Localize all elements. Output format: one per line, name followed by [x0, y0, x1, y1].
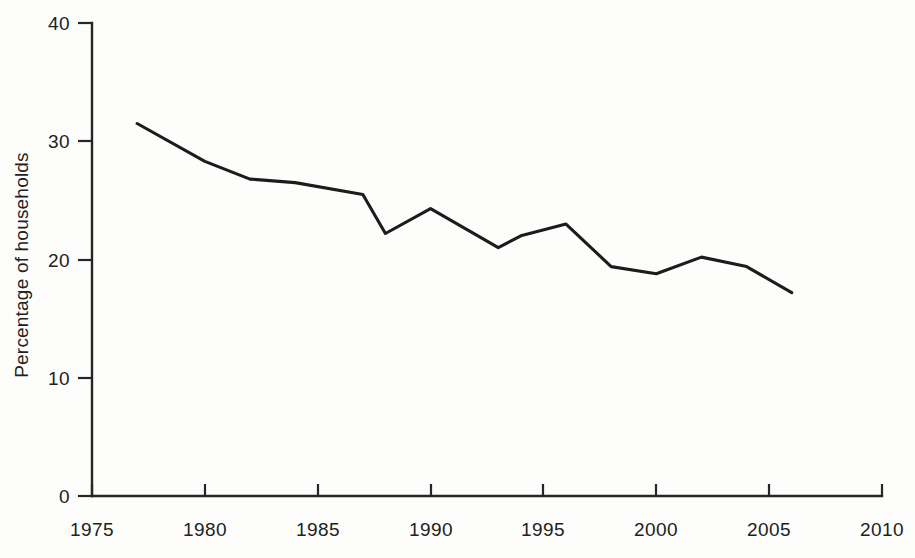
data-series-line — [137, 124, 792, 293]
x-tick-label-1975: 1975 — [70, 519, 114, 540]
x-tick-label-1980: 1980 — [183, 519, 227, 540]
line-chart: 0 10 20 30 40 1975 1980 1985 1990 1995 2… — [0, 0, 915, 558]
y-tick-label-20: 20 — [48, 250, 70, 271]
x-tick-label-1995: 1995 — [521, 519, 565, 540]
x-tick-label-1985: 1985 — [296, 519, 340, 540]
x-axis-ticks — [92, 484, 882, 496]
x-tick-label-2000: 2000 — [634, 519, 678, 540]
y-tick-label-0: 0 — [59, 486, 70, 507]
x-tick-label-2005: 2005 — [747, 519, 791, 540]
chart-canvas: 0 10 20 30 40 1975 1980 1985 1990 1995 2… — [0, 0, 915, 558]
y-axis-tick-labels: 0 10 20 30 40 — [48, 13, 70, 507]
y-axis-ticks — [78, 23, 92, 496]
y-axis-title: Percentage of households — [11, 152, 32, 378]
y-tick-label-10: 10 — [48, 368, 70, 389]
y-tick-label-30: 30 — [48, 131, 70, 152]
x-axis-tick-labels: 1975 1980 1985 1990 1995 2000 2005 2010 — [70, 519, 904, 540]
y-tick-label-40: 40 — [48, 13, 70, 34]
x-tick-label-2010: 2010 — [860, 519, 904, 540]
x-tick-label-1990: 1990 — [409, 519, 453, 540]
